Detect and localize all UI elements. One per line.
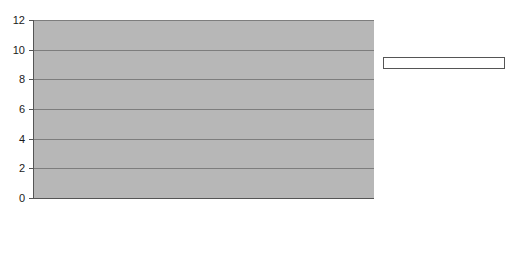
- y-tick-label: 2: [19, 163, 25, 173]
- y-tick-label: 6: [19, 104, 25, 114]
- y-axis: 024681012: [0, 0, 30, 265]
- gridline: [34, 139, 374, 140]
- y-tick-label: 12: [13, 15, 25, 25]
- plot-area: [33, 20, 374, 199]
- y-tick-label: 0: [19, 193, 25, 203]
- y-tick-label: 4: [19, 134, 25, 144]
- y-tick-label: 10: [13, 45, 25, 55]
- y-tick-label: 8: [19, 74, 25, 84]
- plot-top-border: [34, 20, 374, 21]
- bar-chart: 024681012: [0, 0, 511, 265]
- gridline: [34, 50, 374, 51]
- gridline: [34, 168, 374, 169]
- legend: [383, 57, 505, 69]
- gridline: [34, 79, 374, 80]
- gridline: [34, 109, 374, 110]
- x-axis-labels: [33, 200, 374, 262]
